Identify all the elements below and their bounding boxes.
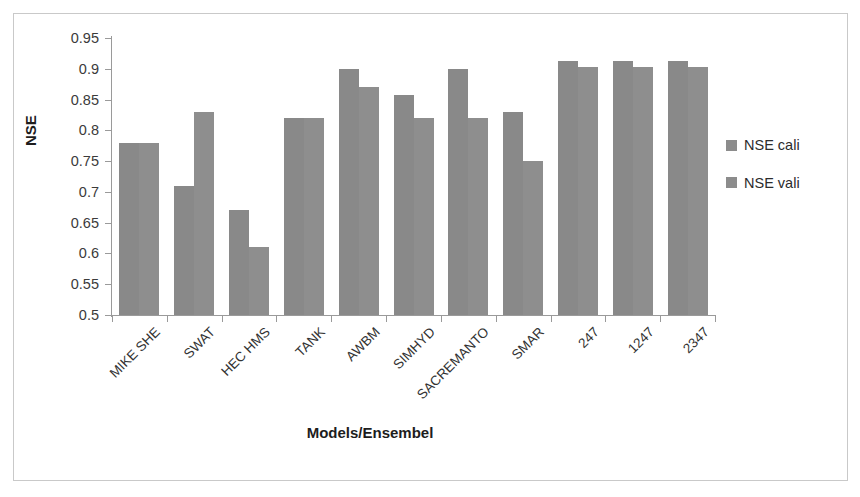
bar[interactable] [633, 67, 653, 315]
y-axis-tick [105, 100, 111, 101]
x-axis-tick [715, 315, 716, 322]
x-axis-tick [496, 315, 497, 322]
y-axis-tick [105, 315, 111, 316]
chart-legend: NSE cali NSE vali [726, 138, 846, 213]
y-axis-tick-label: 0.8 [39, 123, 99, 138]
bar[interactable] [339, 69, 359, 315]
x-axis-tick [441, 315, 442, 322]
y-axis-tick-label: 0.5 [39, 308, 99, 323]
legend-label-nse-vali: NSE vali [744, 176, 800, 191]
bar[interactable] [249, 247, 269, 315]
x-axis-tick [112, 315, 113, 322]
y-axis-tick [105, 38, 111, 39]
bar[interactable] [394, 95, 414, 315]
y-axis-tick [105, 223, 111, 224]
y-axis-tick [105, 192, 111, 193]
x-axis-tick [386, 315, 387, 322]
x-axis-line [111, 315, 716, 316]
y-axis-tick [105, 253, 111, 254]
bar[interactable] [174, 186, 194, 315]
bar[interactable] [578, 67, 598, 315]
bar[interactable] [284, 118, 304, 315]
x-axis-title: Models/Ensembel [0, 424, 740, 441]
x-axis-tick [660, 315, 661, 322]
y-axis-tick-label: 0.85 [39, 93, 99, 108]
y-axis-tick [105, 284, 111, 285]
x-axis-tick [605, 315, 606, 322]
legend-swatch-nse-vali [726, 177, 737, 188]
y-axis-tick-label: 0.65 [39, 216, 99, 231]
x-axis-tick [222, 315, 223, 322]
bar[interactable] [229, 210, 249, 315]
bar[interactable] [613, 61, 633, 315]
y-axis-tick-label: 0.9 [39, 62, 99, 77]
y-axis-tick-label: 0.75 [39, 154, 99, 169]
bar[interactable] [688, 67, 708, 315]
bar[interactable] [304, 118, 324, 315]
y-axis-tick [105, 161, 111, 162]
x-axis-tick [276, 315, 277, 322]
y-axis-tick [105, 130, 111, 131]
y-axis-tick-label: 0.6 [39, 246, 99, 261]
x-axis-tick [167, 315, 168, 322]
chart-figure: 0.950.90.850.80.750.70.650.60.550.5 MIKE… [0, 0, 860, 497]
y-axis-tick-label: 0.55 [39, 277, 99, 292]
y-axis-title: NSE [22, 115, 39, 146]
bar[interactable] [523, 161, 543, 315]
bar[interactable] [503, 112, 523, 315]
bar[interactable] [119, 143, 139, 315]
y-axis-tick-label: 0.7 [39, 185, 99, 200]
plot-area [112, 38, 715, 315]
x-axis-tick [331, 315, 332, 322]
bar[interactable] [194, 112, 214, 315]
bar[interactable] [359, 87, 379, 315]
bar[interactable] [468, 118, 488, 315]
bar[interactable] [139, 143, 159, 315]
bar[interactable] [448, 69, 468, 315]
legend-item-nse-cali[interactable]: NSE cali [726, 138, 846, 153]
bar[interactable] [414, 118, 434, 315]
bar[interactable] [558, 61, 578, 315]
legend-swatch-nse-cali [726, 140, 737, 151]
bar[interactable] [668, 61, 688, 315]
x-axis-tick [551, 315, 552, 322]
y-axis-tick [105, 69, 111, 70]
y-axis-tick-label: 0.95 [39, 31, 99, 46]
legend-label-nse-cali: NSE cali [744, 138, 800, 153]
legend-item-nse-vali[interactable]: NSE vali [726, 176, 846, 191]
